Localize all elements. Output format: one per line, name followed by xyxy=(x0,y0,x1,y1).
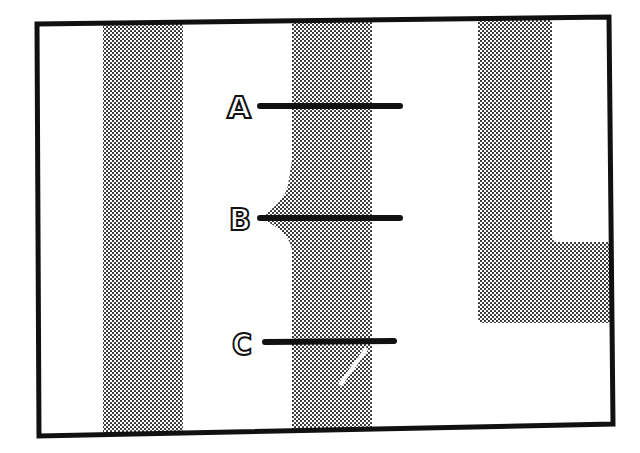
shaded-region-right-l xyxy=(478,15,615,323)
label-a: A xyxy=(227,90,252,125)
label-b: B xyxy=(229,202,251,237)
shaded-stripe-left xyxy=(103,15,183,445)
cut-line-c xyxy=(265,341,394,342)
diagram-canvas: A B C xyxy=(0,0,640,453)
shaded-stripe-middle xyxy=(262,15,372,445)
label-c: C xyxy=(232,327,252,362)
